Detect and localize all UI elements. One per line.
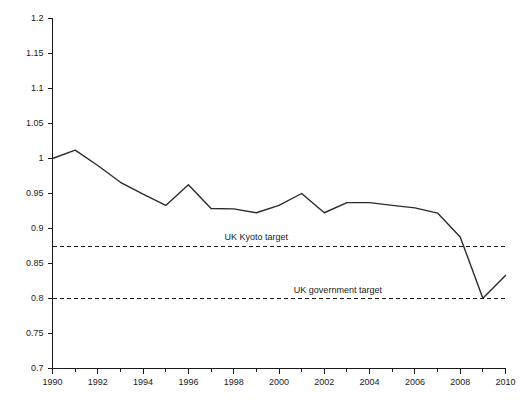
reference-line-label: UK government target xyxy=(294,285,383,295)
x-tick-label: 2010 xyxy=(495,377,515,387)
x-tick-label: 2002 xyxy=(314,377,334,387)
y-tick-label: 1.15 xyxy=(26,48,44,58)
x-tick-label: 1998 xyxy=(224,377,244,387)
y-tick-label: 0.95 xyxy=(26,188,44,198)
y-tick-label: 1 xyxy=(38,153,43,163)
y-tick-label: 0.75 xyxy=(26,328,44,338)
chart-background xyxy=(0,0,526,406)
y-tick-label: 1.2 xyxy=(31,13,44,23)
y-tick-label: 1.1 xyxy=(31,83,44,93)
x-tick-label: 1990 xyxy=(42,377,62,387)
chart-canvas: 0.70.750.80.850.90.9511.051.11.151.2 199… xyxy=(0,0,526,406)
y-tick-label: 0.85 xyxy=(26,258,44,268)
x-tick-label: 2006 xyxy=(405,377,425,387)
x-tick-label: 1992 xyxy=(88,377,108,387)
emissions-line-chart: 0.70.750.80.850.90.9511.051.11.151.2 199… xyxy=(0,0,526,406)
x-tick-label: 2008 xyxy=(450,377,470,387)
x-tick-label: 1996 xyxy=(178,377,198,387)
x-tick-label: 2000 xyxy=(269,377,289,387)
x-tick-label: 1994 xyxy=(133,377,153,387)
y-tick-label: 0.9 xyxy=(31,223,44,233)
reference-line-label: UK Kyoto target xyxy=(225,232,289,242)
y-tick-label: 0.7 xyxy=(31,363,44,373)
y-tick-label: 0.8 xyxy=(31,293,44,303)
x-tick-label: 2004 xyxy=(360,377,380,387)
y-tick-label: 1.05 xyxy=(26,118,44,128)
